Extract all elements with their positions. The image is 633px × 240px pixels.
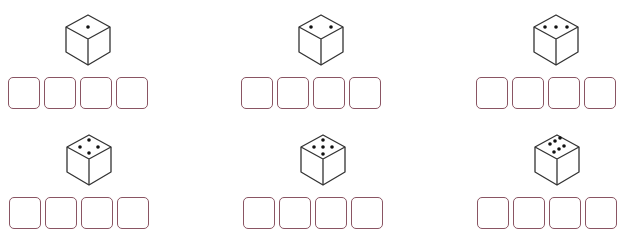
answer-box[interactable] (243, 197, 275, 229)
answer-boxes (9, 197, 149, 229)
die-cube-icon (531, 132, 583, 188)
die-cube-icon (62, 12, 114, 68)
die-exercise-3 (476, 0, 633, 118)
answer-box[interactable] (45, 197, 77, 229)
answer-box[interactable] (476, 77, 508, 109)
answer-box[interactable] (313, 77, 345, 109)
answer-box[interactable] (8, 77, 40, 109)
die-exercise-2 (241, 0, 401, 118)
answer-box[interactable] (351, 197, 383, 229)
answer-boxes (477, 197, 617, 229)
answer-boxes (8, 77, 148, 109)
die-exercise-1 (8, 0, 168, 118)
answer-box[interactable] (477, 197, 509, 229)
answer-box[interactable] (9, 197, 41, 229)
answer-box[interactable] (44, 77, 76, 109)
answer-box[interactable] (279, 197, 311, 229)
answer-box[interactable] (512, 77, 544, 109)
answer-box[interactable] (81, 197, 113, 229)
answer-box[interactable] (241, 77, 273, 109)
answer-box[interactable] (116, 77, 148, 109)
answer-box[interactable] (349, 77, 381, 109)
answer-box[interactable] (80, 77, 112, 109)
die-cube-icon (295, 12, 347, 68)
answer-box[interactable] (585, 197, 617, 229)
answer-box[interactable] (548, 77, 580, 109)
die-exercise-4 (9, 120, 169, 238)
die-cube-icon (63, 132, 115, 188)
answer-box[interactable] (117, 197, 149, 229)
answer-boxes (241, 77, 381, 109)
answer-box[interactable] (277, 77, 309, 109)
answer-boxes (476, 77, 616, 109)
answer-box[interactable] (584, 77, 616, 109)
die-cube-icon (530, 12, 582, 68)
die-exercise-5 (243, 120, 403, 238)
answer-box[interactable] (549, 197, 581, 229)
answer-boxes (243, 197, 383, 229)
die-exercise-6 (477, 120, 633, 238)
die-cube-icon (297, 132, 349, 188)
answer-box[interactable] (513, 197, 545, 229)
answer-box[interactable] (315, 197, 347, 229)
